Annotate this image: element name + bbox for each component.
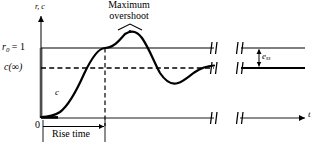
- reference-level-value: = 1: [9, 41, 25, 52]
- reference-level-label: r0 = 1: [2, 41, 25, 53]
- final-value-label: c(∞): [4, 61, 22, 72]
- rise-time-label: Rise time: [52, 128, 90, 139]
- max-overshoot-pointer: [118, 24, 142, 30]
- step-response-plot: [0, 0, 318, 146]
- max-overshoot-label-line2: overshoot: [109, 10, 148, 21]
- origin-label: 0: [35, 119, 40, 130]
- step-response-figure: r, c Maximum overshoot r0 = 1 c(∞) c 0 R…: [0, 0, 318, 146]
- steady-state-error-subscript: ss: [266, 55, 270, 61]
- response-curve: [41, 32, 214, 117]
- axis-break-right: [237, 42, 244, 124]
- curve-label: c: [55, 87, 59, 97]
- x-axis-label: t: [308, 109, 311, 119]
- overshoot-peak-marker: [129, 30, 132, 33]
- steady-state-error-label: ess: [262, 51, 270, 61]
- max-overshoot-label: Maximum overshoot: [86, 0, 172, 21]
- max-overshoot-label-line1: Maximum: [108, 0, 150, 10]
- y-axis-label: r, c: [35, 2, 45, 11]
- axis-break-left: [211, 42, 218, 124]
